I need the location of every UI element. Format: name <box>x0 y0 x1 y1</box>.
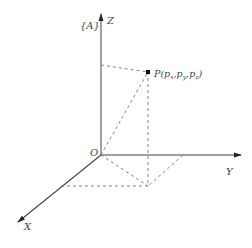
point-p-label: P(px,py,pz) <box>153 68 202 81</box>
coordinate-diagram: {A} Z Y X O P(px,py,pz) <box>0 0 252 248</box>
frame-label: {A} <box>80 20 100 31</box>
origin-label: O <box>90 147 98 158</box>
point-p-marker <box>146 70 150 74</box>
x-axis-label: X <box>23 221 32 232</box>
x-axis <box>18 155 101 222</box>
z-axis-label: Z <box>106 15 115 26</box>
y-axis-label: Y <box>226 166 234 177</box>
projection-lines <box>61 65 183 186</box>
